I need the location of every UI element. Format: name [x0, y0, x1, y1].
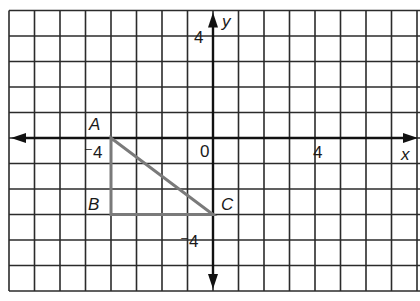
vertex-label-a: A	[88, 115, 100, 134]
coordinate-plane: yx⁻4044⁻4ABC	[0, 0, 420, 301]
axes	[11, 13, 418, 290]
x-axis-left-arrow-icon	[11, 133, 26, 143]
tick-label-x-neg4: ⁻4	[84, 143, 102, 162]
tick-label-x-pos4: 4	[313, 143, 322, 162]
y-axis-label: y	[221, 12, 232, 31]
tick-label-origin: 0	[200, 142, 209, 161]
y-axis-down-arrow-icon	[208, 274, 218, 289]
vertex-label-b: B	[88, 195, 99, 214]
y-axis-up-arrow-icon	[208, 13, 218, 28]
coordinate-plane-svg: yx⁻4044⁻4ABC	[0, 0, 420, 301]
x-axis-label: x	[400, 145, 410, 164]
vertex-label-c: C	[221, 195, 234, 214]
grid-lines	[9, 11, 420, 292]
tick-label-y-pos4: 4	[194, 28, 203, 47]
x-axis-right-arrow-icon	[403, 133, 418, 143]
tick-label-y-neg4: ⁻4	[180, 232, 198, 251]
